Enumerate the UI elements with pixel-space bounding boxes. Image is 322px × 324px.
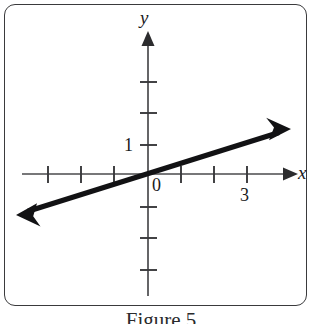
figure-container: y x 1 0 3 Figure 5 (0, 0, 322, 324)
y-tick-label-1: 1 (124, 136, 133, 154)
x-tick-label-3: 3 (240, 186, 249, 204)
y-axis-label: y (140, 8, 148, 27)
coordinate-plane-graphic (0, 0, 322, 324)
y-axis-arrowhead-icon (142, 31, 155, 46)
figure-caption: Figure 5 (0, 310, 322, 324)
x-axis-arrowhead-icon (283, 168, 298, 181)
origin-label-0: 0 (152, 176, 161, 194)
x-axis-label: x (298, 163, 306, 182)
